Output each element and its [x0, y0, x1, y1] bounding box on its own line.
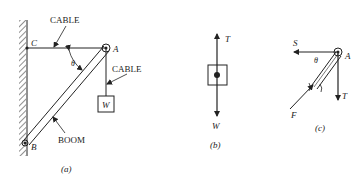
boom-segment: [309, 48, 342, 92]
label-cable-top: CABLE: [50, 15, 80, 25]
wall: [19, 20, 27, 156]
label-s: S: [293, 38, 298, 48]
label-t: T: [225, 34, 231, 44]
label-t-c: T: [342, 91, 348, 101]
leader-cable-right: [107, 74, 127, 84]
label-cable-right: CABLE: [112, 64, 142, 74]
label-a-c: A: [344, 51, 351, 61]
label-theta-c: θ: [314, 56, 318, 65]
point-c: [25, 46, 28, 49]
boom: [22, 44, 110, 146]
caption-a: (a): [61, 164, 72, 174]
leader-boom: [53, 117, 65, 133]
caption-c: (c): [315, 123, 325, 133]
label-a: A: [112, 44, 119, 54]
free-body-diagram: CABLE C A θ CABLE W BOOM B (a) T W (b): [0, 0, 362, 189]
label-boom: BOOM: [58, 135, 85, 145]
figure-b: T W (b): [208, 34, 231, 150]
caption-b: (b): [210, 140, 221, 150]
label-theta: θ: [71, 59, 75, 68]
f-arrow: [290, 85, 313, 109]
leader-cable-top: [54, 26, 66, 47]
label-c: C: [31, 38, 38, 48]
figure-a: CABLE C A θ CABLE W BOOM B (a): [19, 15, 142, 174]
label-f: F: [290, 110, 297, 120]
label-w: W: [212, 121, 221, 131]
label-b: B: [31, 142, 37, 152]
